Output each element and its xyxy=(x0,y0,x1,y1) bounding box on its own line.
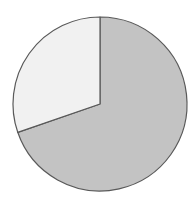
pie-chart-figure: Slice 1 70%Slice 2 30% xyxy=(0,0,195,211)
pie-slices-group: Slice 1 70%Slice 2 30% xyxy=(13,17,187,191)
pie-chart-svg: Slice 1 70%Slice 2 30% xyxy=(0,0,195,211)
